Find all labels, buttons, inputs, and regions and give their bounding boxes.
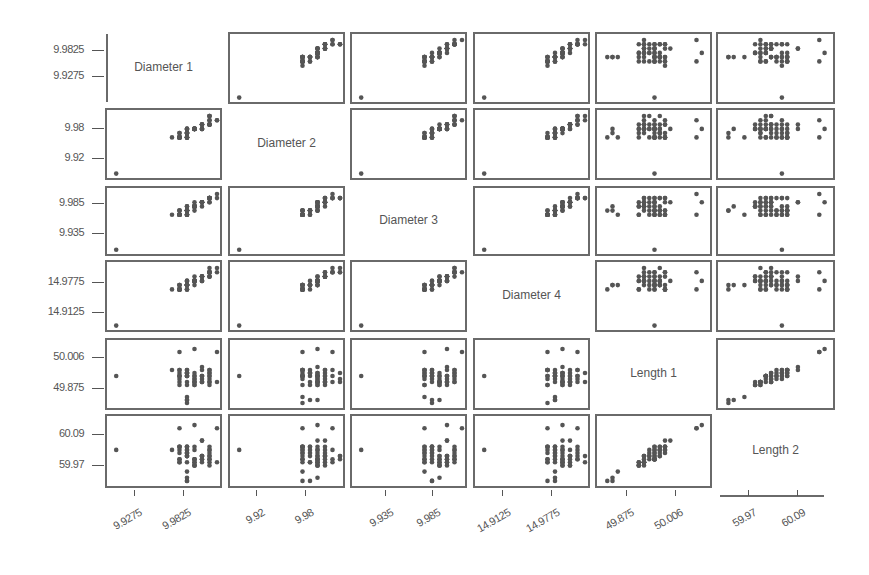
scatter-points <box>597 262 714 334</box>
y-tick <box>92 203 104 204</box>
x-tick <box>385 490 386 496</box>
x-axis-line <box>720 495 824 497</box>
scatter-points <box>230 34 347 106</box>
x-tick <box>256 490 257 496</box>
scatter-points <box>475 188 592 258</box>
scatter-points <box>230 416 347 490</box>
x-tick <box>305 490 306 496</box>
scatter-points <box>475 340 592 412</box>
x-tick-label: 14.9125 <box>475 506 512 535</box>
scatter-panel <box>595 260 712 332</box>
scatter-panel <box>473 186 590 256</box>
y-axis-line <box>106 34 108 102</box>
x-tick-label: 14.9775 <box>524 506 561 535</box>
x-tick <box>432 490 433 496</box>
scatter-panel <box>350 32 467 104</box>
x-tick <box>797 490 798 496</box>
scatter-panel <box>595 108 712 180</box>
x-tick-label: 9.9275 <box>111 506 144 532</box>
scatter-points <box>718 110 837 182</box>
variable-label: Diameter 2 <box>228 136 345 150</box>
scatter-panel <box>228 260 345 332</box>
y-tick <box>92 233 104 234</box>
scatter-panel <box>473 32 590 104</box>
scatter-points <box>230 262 347 334</box>
scatter-points <box>597 416 714 490</box>
x-tick-label: 59.97 <box>730 506 758 529</box>
scatter-panel <box>595 186 712 256</box>
y-tick-label: 50.006 <box>4 350 84 362</box>
scatter-panel <box>350 260 467 332</box>
variable-label: Length 2 <box>716 443 835 457</box>
y-tick-label: 49.875 <box>4 381 84 393</box>
scatter-panel <box>228 338 345 410</box>
x-tick <box>183 490 184 496</box>
y-tick <box>92 76 104 77</box>
scatter-points <box>718 34 837 106</box>
x-tick <box>502 490 503 496</box>
scatter-points <box>230 340 347 412</box>
x-tick-label: 9.985 <box>414 506 442 529</box>
y-tick-label: 9.9275 <box>4 69 84 81</box>
scatter-points <box>107 188 224 258</box>
scatter-points <box>107 110 224 182</box>
scatter-points <box>352 110 469 182</box>
y-tick <box>92 357 104 358</box>
scatter-points <box>352 34 469 106</box>
y-tick <box>92 388 104 389</box>
scatter-points <box>718 262 837 334</box>
y-tick <box>92 465 104 466</box>
scatter-points <box>107 416 224 490</box>
scatter-points <box>718 340 837 412</box>
scatter-points <box>475 34 592 106</box>
scatter-panel <box>228 32 345 104</box>
scatter-points <box>475 110 592 182</box>
y-tick-label: 9.98 <box>4 121 84 133</box>
y-tick <box>92 282 104 283</box>
scatter-points <box>352 416 469 490</box>
scatter-points <box>230 188 347 258</box>
scatter-panel <box>105 338 222 410</box>
y-tick-label: 14.9775 <box>4 275 84 287</box>
scatter-panel <box>473 414 590 488</box>
scatter-panel <box>228 414 345 488</box>
y-tick-label: 14.9125 <box>4 305 84 317</box>
x-tick <box>551 490 552 496</box>
y-tick <box>92 158 104 159</box>
scatter-panel <box>350 338 467 410</box>
x-tick-label: 49.875 <box>603 506 636 532</box>
y-tick <box>92 434 104 435</box>
scatter-points <box>352 340 469 412</box>
scatter-panel <box>716 32 835 104</box>
scatter-panel <box>595 414 712 488</box>
y-tick-label: 9.9825 <box>4 43 84 55</box>
variable-label: Length 1 <box>595 366 712 380</box>
y-tick <box>92 312 104 313</box>
scatter-panel <box>350 414 467 488</box>
scatter-panel <box>473 338 590 410</box>
x-tick-label: 50.006 <box>652 506 685 532</box>
y-tick-label: 59.97 <box>4 458 84 470</box>
scatter-panel <box>595 32 712 104</box>
scatter-panel <box>105 260 222 332</box>
y-tick-label: 9.92 <box>4 151 84 163</box>
scatter-points <box>597 34 714 106</box>
scatter-panel <box>716 260 835 332</box>
scatter-panel <box>350 108 467 180</box>
y-tick-label: 9.935 <box>4 226 84 238</box>
x-tick <box>626 490 627 496</box>
scatter-panel <box>716 186 835 256</box>
scatter-panel <box>716 338 835 410</box>
x-tick <box>134 490 135 496</box>
scatter-points <box>475 416 592 490</box>
y-tick <box>92 128 104 129</box>
scatter-points <box>352 262 469 334</box>
y-tick-label: 9.985 <box>4 196 84 208</box>
y-tick-label: 60.09 <box>4 427 84 439</box>
x-tick <box>748 490 749 496</box>
scatter-panel <box>228 186 345 256</box>
variable-label: Diameter 1 <box>105 60 222 74</box>
x-tick-label: 9.935 <box>367 506 395 529</box>
scatter-panel <box>473 108 590 180</box>
scatter-points <box>107 340 224 412</box>
